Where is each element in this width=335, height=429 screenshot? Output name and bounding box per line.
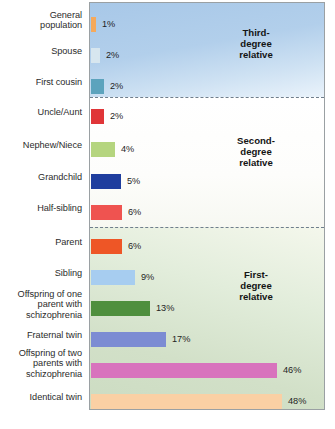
- category-label: Offspring of twoparents withschizophreni…: [0, 348, 82, 379]
- category-label: Offspring of oneparent withschizophrenia: [0, 289, 82, 320]
- category-label: Sibling: [0, 268, 82, 278]
- plot-area: Third- degree relative Second- degree re…: [89, 2, 325, 410]
- category-label: Nephew/Niece: [0, 140, 82, 150]
- category-label: Fraternal twin: [0, 330, 82, 340]
- bar: [91, 142, 115, 157]
- category-label: Identical twin: [0, 392, 82, 402]
- category-label: Spouse: [0, 46, 82, 56]
- zone-background-first-degree: [90, 227, 324, 410]
- bar-value-label: 2%: [110, 109, 123, 124]
- zone-title-first-degree: First- degree relative: [218, 269, 294, 303]
- category-label: First cousin: [0, 77, 82, 87]
- category-label: Uncle/Aunt: [0, 107, 82, 117]
- bar: [91, 332, 166, 347]
- bar-value-label: 13%: [156, 301, 174, 316]
- schizophrenia-risk-bar-chart: GeneralpopulationSpouseFirst cousinUncle…: [0, 0, 335, 429]
- bar-value-label: 48%: [288, 394, 306, 409]
- bar: [91, 205, 122, 220]
- bar: [91, 79, 104, 94]
- bar-value-label: 17%: [172, 332, 190, 347]
- bar-value-label: 46%: [283, 363, 301, 378]
- bar: [91, 301, 150, 316]
- bar: [91, 394, 282, 409]
- bar-value-label: 6%: [128, 239, 141, 254]
- bar: [91, 174, 121, 189]
- bar-value-label: 2%: [110, 79, 123, 94]
- zone-title-second-degree: Second- degree relative: [218, 135, 294, 169]
- category-label: Half-sibling: [0, 203, 82, 213]
- category-label-column: GeneralpopulationSpouseFirst cousinUncle…: [0, 0, 86, 429]
- bar: [91, 109, 104, 124]
- bar-value-label: 9%: [141, 270, 154, 285]
- category-label: Grandchild: [0, 172, 82, 182]
- bar-value-label: 1%: [102, 17, 115, 32]
- bar: [91, 363, 277, 378]
- zone-divider-second-first: [90, 227, 324, 228]
- bar: [91, 17, 96, 32]
- bar: [91, 270, 135, 285]
- zone-divider-third-second: [90, 97, 324, 98]
- bar-value-label: 4%: [121, 142, 134, 157]
- bar-value-label: 2%: [106, 48, 119, 63]
- bar-value-label: 5%: [127, 174, 140, 189]
- bar-value-label: 6%: [128, 205, 141, 220]
- bar: [91, 48, 100, 63]
- bar: [91, 239, 122, 254]
- category-label: Parent: [0, 237, 82, 247]
- zone-title-third-degree: Third- degree relative: [218, 27, 294, 61]
- category-label: Generalpopulation: [0, 10, 82, 31]
